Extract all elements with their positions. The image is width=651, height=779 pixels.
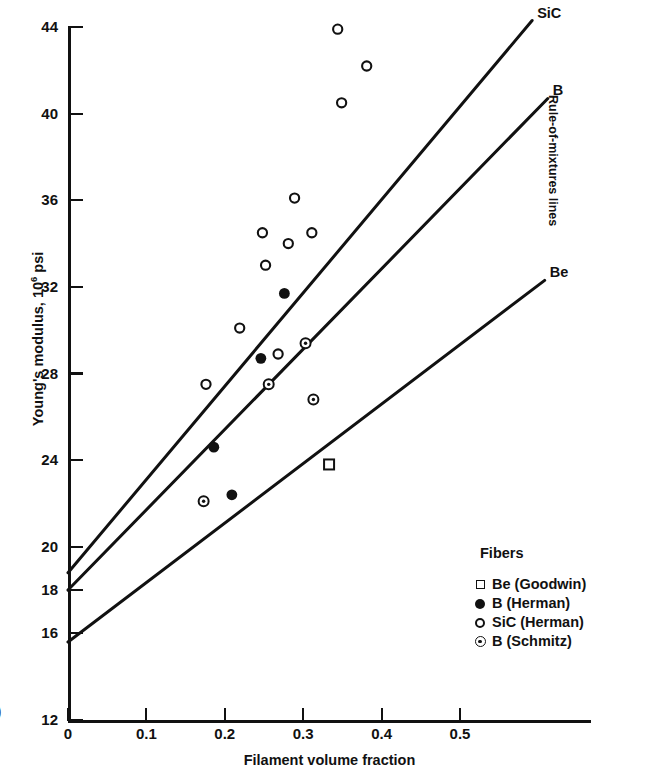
y-tick [70, 286, 83, 288]
trend-line-label-sic: SiC [537, 6, 561, 21]
trend-line-sic [68, 21, 532, 573]
data-point [258, 228, 267, 237]
x-axis-title: Filament volume fraction [68, 752, 591, 768]
rule-of-mixtures-annotation: Rule-of-mixtures lines [546, 95, 560, 295]
legend-marker-filled-circle-icon [468, 599, 492, 609]
legend-item[interactable]: SiC (Herman) [468, 613, 638, 632]
x-tick-label: 0.5 [438, 726, 482, 741]
y-tick [70, 199, 83, 201]
x-tick [381, 708, 383, 721]
y-tick [70, 372, 83, 374]
data-point [255, 353, 266, 364]
y-tick-label: 40 [24, 106, 58, 121]
legend-marker-open-circle-icon [468, 618, 492, 628]
y-tick [70, 113, 83, 115]
data-point [208, 442, 219, 453]
chart-figure: Young's modulus, 106 psi 121618202428323… [0, 0, 651, 779]
trend-line-b [68, 98, 548, 590]
y-tick [70, 589, 83, 591]
data-point [324, 459, 334, 469]
legend-item-label: SiC (Herman) [492, 615, 584, 630]
data-point [264, 379, 274, 389]
legend-item-group: Be (Goodwin)B (Herman)SiC (Herman)B (Sch… [468, 575, 638, 651]
x-tick-label: 0.4 [360, 726, 404, 741]
data-point [235, 323, 244, 332]
x-tick-label: 0.3 [281, 726, 325, 741]
y-axis-title-unit: psi [30, 252, 46, 277]
y-tick [70, 459, 83, 461]
data-point [201, 380, 210, 389]
y-tick-label: 24 [24, 452, 58, 467]
data-point [362, 61, 371, 70]
y-tick-label: 12 [24, 712, 58, 727]
data-point [284, 239, 293, 248]
legend-item-label: Be (Goodwin) [492, 577, 586, 592]
data-point [337, 98, 346, 107]
data-point [301, 338, 311, 348]
data-point [226, 489, 237, 500]
x-tick [302, 708, 304, 721]
x-tick [145, 708, 147, 721]
legend-item-label: B (Herman) [492, 596, 570, 611]
data-point [333, 25, 342, 34]
y-tick-label: 20 [24, 539, 58, 554]
data-point [308, 394, 318, 404]
y-tick-label: 28 [24, 366, 58, 381]
data-marker-group [199, 25, 372, 507]
legend-title: Fibers [480, 545, 638, 561]
data-point [307, 228, 316, 237]
x-tick [224, 708, 226, 721]
legend-item[interactable]: B (Schmitz) [468, 632, 638, 651]
x-tick-label: 0.2 [203, 726, 247, 741]
y-tick-label: 44 [24, 19, 58, 34]
y-tick [70, 719, 83, 721]
legend-marker-open-square-icon [468, 580, 492, 589]
legend-item[interactable]: Be (Goodwin) [468, 575, 638, 594]
legend-marker-dotted-circle-icon [468, 636, 492, 647]
x-tick-label: 0.1 [124, 726, 168, 741]
legend-item[interactable]: B (Herman) [468, 594, 638, 613]
y-tick-label: 36 [24, 192, 58, 207]
y-tick-label: 16 [24, 625, 58, 640]
data-point [290, 193, 299, 202]
y-tick [70, 632, 83, 634]
y-axis-title-main: Young's modulus, 10 [30, 282, 46, 426]
x-tick [459, 708, 461, 721]
x-tick-label: 0 [46, 726, 90, 741]
y-tick [70, 26, 83, 28]
page-edge-artifact: ) [0, 703, 1, 721]
y-tick-label: 18 [24, 582, 58, 597]
data-point [261, 261, 270, 270]
legend: Fibers Be (Goodwin)B (Herman)SiC (Herman… [468, 545, 638, 651]
y-tick [70, 546, 83, 548]
x-tick [67, 708, 69, 721]
y-axis-title: Young's modulus, 106 psi [28, 224, 46, 454]
data-point [274, 349, 283, 358]
y-tick-label: 32 [24, 279, 58, 294]
legend-item-label: B (Schmitz) [492, 634, 572, 649]
data-point [279, 288, 290, 299]
data-point [199, 496, 209, 506]
